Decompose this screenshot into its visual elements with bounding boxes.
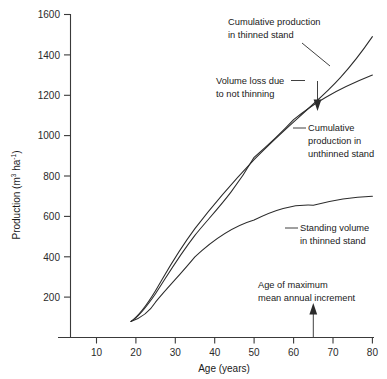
x-tick-label-20: 20 bbox=[130, 347, 142, 358]
svg-text:Production (m3 ha-1): Production (m3 ha-1) bbox=[10, 150, 22, 239]
annotation-standing-volume-line2: in thinned stand bbox=[300, 236, 366, 246]
x-tick-label-50: 50 bbox=[249, 347, 261, 358]
annotation-volume-loss-line1: Volume loss due bbox=[216, 76, 284, 86]
y-axis bbox=[64, 14, 71, 338]
annotation-cumulative-unthinned: Cumulative production in unthinned stand bbox=[308, 123, 374, 159]
y-tick-label-400: 400 bbox=[43, 252, 60, 263]
x-tick-label-60: 60 bbox=[288, 347, 300, 358]
annotation-max-mai: Age of maximum mean annual increment bbox=[258, 280, 356, 303]
annotation-cumulative-thinned-line2: in thinned stand bbox=[228, 30, 294, 40]
x-tick-label-80: 80 bbox=[367, 347, 379, 358]
y-tick-label-1000: 1000 bbox=[38, 130, 61, 141]
x-axis-title: Age (years) bbox=[198, 363, 250, 374]
y-tick-label-200: 200 bbox=[43, 292, 60, 303]
y-axis-title: Production (m3 ha-1) bbox=[10, 150, 22, 239]
annotation-cumulative-unthinned-line1: Cumulative bbox=[308, 123, 355, 133]
leader-cumulative-thinned bbox=[302, 43, 330, 66]
y-tick-label-800: 800 bbox=[43, 171, 60, 182]
y-axis-title-end: ) bbox=[11, 150, 22, 153]
annotation-cumulative-unthinned-line2: production in bbox=[308, 136, 361, 146]
annotation-max-mai-line1: Age of maximum bbox=[258, 280, 328, 290]
annotation-volume-loss: Volume loss due to not thinning bbox=[216, 76, 284, 99]
annotation-volume-loss-line2: to not thinning bbox=[216, 89, 274, 99]
y-tick-label-1200: 1200 bbox=[38, 90, 61, 101]
x-tick-label-30: 30 bbox=[170, 347, 182, 358]
chart-canvas: 1600 1400 1200 1000 800 600 400 200 10 2… bbox=[0, 0, 387, 379]
annotation-max-mai-line2: mean annual increment bbox=[258, 293, 356, 303]
y-tick-label-1600: 1600 bbox=[38, 9, 61, 20]
annotation-cumulative-unthinned-line3: unthinned stand bbox=[308, 149, 374, 159]
x-tick-label-10: 10 bbox=[91, 347, 103, 358]
annotation-standing-volume-line1: Standing volume bbox=[300, 223, 369, 233]
y-tick-label-1400: 1400 bbox=[38, 50, 61, 61]
x-tick-label-70: 70 bbox=[327, 347, 339, 358]
annotation-cumulative-thinned: Cumulative production in thinned stand bbox=[228, 17, 321, 40]
volume-loss-arrow-icon bbox=[314, 81, 322, 111]
x-tick-label-40: 40 bbox=[209, 347, 221, 358]
y-tick-label-600: 600 bbox=[43, 211, 60, 222]
production-chart: 1600 1400 1200 1000 800 600 400 200 10 2… bbox=[0, 0, 387, 379]
max-mai-arrow-icon bbox=[309, 303, 317, 337]
annotation-cumulative-thinned-line1: Cumulative production bbox=[228, 17, 321, 27]
y-axis-title-main: Production (m bbox=[11, 177, 22, 239]
annotation-standing-volume: Standing volume in thinned stand bbox=[300, 223, 369, 246]
y-axis-title-mid: ha bbox=[11, 159, 22, 173]
curve-cumulative-unthinned bbox=[131, 75, 372, 321]
x-axis bbox=[58, 338, 374, 344]
